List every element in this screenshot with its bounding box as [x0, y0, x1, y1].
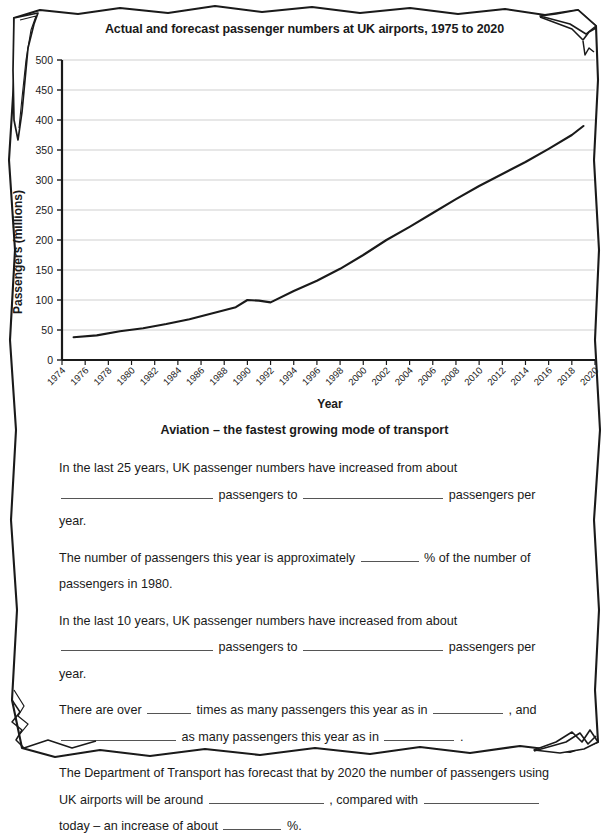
x-tick-label: 1976	[68, 365, 91, 388]
y-tick-label: 400	[35, 114, 53, 126]
answer-blank[interactable]	[384, 727, 454, 741]
y-axis: 050100150200250300350400450500	[35, 54, 595, 366]
x-tick-label: 2014	[508, 365, 531, 388]
answer-blank[interactable]	[361, 548, 419, 562]
y-tick-label: 100	[35, 294, 53, 306]
x-tick-label: 1978	[91, 365, 114, 388]
x-tick-label: 2008	[439, 365, 462, 388]
worksheet-paragraph: In the last 25 years, UK passenger numbe…	[59, 455, 559, 535]
worksheet-text: In the last 10 years, UK passenger numbe…	[59, 614, 457, 628]
worksheet-text: passengers to	[219, 488, 302, 502]
worksheet-text: passengers to	[219, 640, 302, 654]
answer-blank[interactable]	[61, 485, 213, 499]
worksheet-heading: Aviation – the fastest growing mode of t…	[0, 423, 609, 437]
y-tick-label: 500	[35, 54, 53, 66]
x-tick-label: 2006	[415, 365, 438, 388]
worksheet-paragraph: There are over times as many passengers …	[59, 697, 559, 750]
y-tick-label: 200	[35, 234, 53, 246]
x-tick-label: 1980	[114, 365, 137, 388]
y-axis-title: Passengers (millions)	[11, 190, 25, 314]
y-tick-label: 450	[35, 84, 53, 96]
worksheet-text: as many passengers this year as in	[182, 730, 383, 744]
y-tick-label: 150	[35, 264, 53, 276]
answer-blank[interactable]	[303, 637, 443, 651]
x-tick-label: 1986	[184, 365, 207, 388]
worksheet-paragraph: In the last 10 years, UK passenger numbe…	[59, 608, 559, 688]
y-tick-label: 300	[35, 174, 53, 186]
answer-blank[interactable]	[424, 790, 539, 804]
x-tick-label: 1992	[253, 365, 276, 388]
answer-blank[interactable]	[433, 700, 503, 714]
answer-blank[interactable]	[303, 485, 443, 499]
y-tick-label: 0	[47, 354, 53, 366]
x-tick-label: 1988	[207, 365, 230, 388]
answer-blank[interactable]	[61, 637, 213, 651]
worksheet-body: In the last 25 years, UK passenger numbe…	[59, 455, 559, 837]
worksheet-paragraph: The Department of Transport has forecast…	[59, 760, 559, 837]
x-tick-label: 1998	[323, 365, 346, 388]
worksheet-text: , and	[509, 703, 537, 717]
answer-blank[interactable]	[209, 790, 324, 804]
x-tick-label: 2016	[531, 365, 554, 388]
x-tick-label: 1984	[161, 365, 184, 388]
worksheet-paragraph: The number of passengers this year is ap…	[59, 545, 559, 598]
x-tick-label: 1982	[137, 365, 160, 388]
worksheet-text: .	[460, 730, 464, 744]
x-tick-label: 2020	[578, 365, 601, 388]
answer-blank[interactable]	[223, 816, 281, 830]
worksheet-text: today – an increase of about	[59, 819, 221, 833]
x-tick-label: 1974	[45, 365, 68, 388]
worksheet-text: , compared with	[329, 793, 421, 807]
y-tick-label: 50	[41, 324, 53, 336]
data-series-line	[74, 126, 584, 337]
x-tick-label: 2018	[555, 365, 578, 388]
x-tick-label: 1990	[230, 365, 253, 388]
x-tick-label: 2002	[369, 365, 392, 388]
worksheet-text: The number of passengers this year is ap…	[59, 551, 359, 565]
answer-blank[interactable]	[61, 727, 176, 741]
x-tick-label: 2000	[346, 365, 369, 388]
answer-blank[interactable]	[147, 700, 191, 714]
passenger-numbers-line-chart: Passengers (millions) 050100150200250300…	[0, 44, 609, 419]
worksheet-text: times as many passengers this year as in	[197, 703, 432, 717]
x-axis: 1974197619781980198219841986198819901992…	[45, 360, 601, 387]
y-tick-label: 350	[35, 144, 53, 156]
worksheet-text: There are over	[59, 703, 145, 717]
x-axis-title: Year	[317, 397, 343, 411]
x-tick-label: 1996	[300, 365, 323, 388]
x-tick-label: 1994	[276, 365, 299, 388]
y-tick-label: 250	[35, 204, 53, 216]
chart-title: Actual and forecast passenger numbers at…	[0, 22, 609, 36]
x-tick-label: 2010	[462, 365, 485, 388]
worksheet-text: %.	[287, 819, 302, 833]
x-tick-label: 2004	[392, 365, 415, 388]
worksheet-text: In the last 25 years, UK passenger numbe…	[59, 461, 457, 475]
x-tick-label: 2012	[485, 365, 508, 388]
